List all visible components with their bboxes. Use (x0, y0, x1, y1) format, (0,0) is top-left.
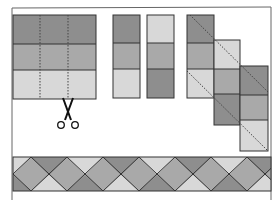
cut-segment-1 (113, 15, 140, 98)
cut-segment-2-flipped (147, 15, 174, 98)
scissors-icon (58, 98, 79, 128)
quilt-diagram (0, 0, 279, 200)
offset-segments (187, 15, 268, 151)
strip-set (13, 15, 96, 99)
finished-border (0, 157, 279, 191)
